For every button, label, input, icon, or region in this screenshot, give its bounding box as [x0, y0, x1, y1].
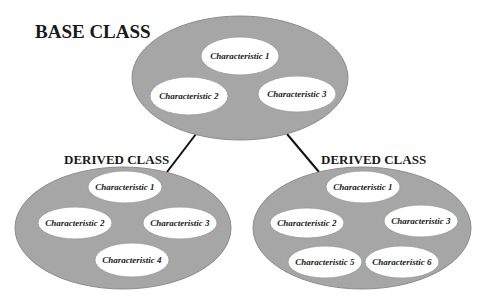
characteristic-label: Characteristic 2: [45, 218, 105, 228]
derived-left-characteristic-4: Characteristic 4: [95, 243, 169, 277]
characteristic-label: Characteristic 3: [267, 89, 327, 99]
characteristic-label: Characteristic 1: [95, 182, 154, 192]
characteristic-label: Characteristic 3: [150, 218, 210, 228]
derived-left-characteristic-2: Characteristic 2: [38, 207, 112, 239]
base-characteristic-1: Characteristic 1: [201, 37, 279, 75]
characteristic-label: Characteristic 2: [159, 91, 219, 101]
derived-class-right-node: DERIVED CLASS Characteristic 1 Character…: [253, 152, 471, 289]
base-class-title: BASE CLASS: [35, 21, 151, 42]
base-characteristic-2: Characteristic 2: [150, 77, 228, 115]
characteristic-label: Characteristic 2: [277, 218, 337, 228]
derived-right-characteristic-6: Characteristic 6: [365, 246, 439, 278]
derived-class-left-title: DERIVED CLASS: [64, 152, 169, 167]
derived-class-left-node: DERIVED CLASS Characteristic 1 Character…: [15, 152, 231, 289]
base-characteristic-3: Characteristic 3: [258, 76, 336, 112]
derived-right-characteristic-1: Characteristic 1: [326, 171, 400, 203]
derived-right-characteristic-2: Characteristic 2: [270, 208, 344, 238]
derived-left-characteristic-3: Characteristic 3: [143, 207, 217, 239]
characteristic-label: Characteristic 4: [102, 255, 162, 265]
characteristic-label: Characteristic 6: [372, 257, 432, 267]
derived-right-characteristic-5: Characteristic 5: [288, 246, 362, 278]
inheritance-diagram: BASE CLASS Characteristic 1 Characterist…: [0, 0, 491, 301]
connector-base-to-derived-right: [287, 134, 319, 172]
characteristic-label: Characteristic 5: [295, 257, 355, 267]
characteristic-label: Characteristic 3: [391, 216, 451, 226]
base-class-node: BASE CLASS Characteristic 1 Characterist…: [35, 16, 348, 140]
derived-class-right-title: DERIVED CLASS: [321, 152, 426, 167]
characteristic-label: Characteristic 1: [333, 182, 392, 192]
characteristic-label: Characteristic 1: [210, 51, 269, 61]
connector-base-to-derived-left: [167, 134, 196, 172]
derived-right-characteristic-3: Characteristic 3: [384, 205, 458, 237]
derived-left-characteristic-1: Characteristic 1: [88, 171, 162, 203]
